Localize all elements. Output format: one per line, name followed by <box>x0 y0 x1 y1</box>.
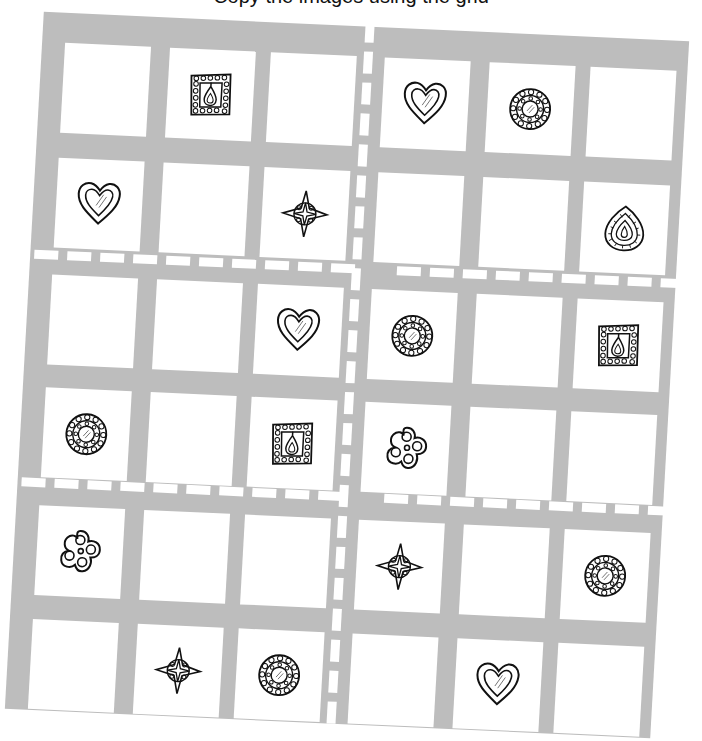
flower-icon <box>380 423 433 475</box>
region-divider-vertical <box>363 51 373 73</box>
grid-cell-r5-c1[interactable] <box>34 505 125 599</box>
region-divider-horizontal <box>21 477 45 487</box>
region-divider-horizontal <box>186 485 210 495</box>
grid-cell-r1-c4[interactable] <box>380 57 471 151</box>
grid-cell-r1-c2[interactable] <box>165 48 256 142</box>
region-divider-horizontal <box>627 277 651 287</box>
grid-cell-r6-c6[interactable] <box>553 643 644 737</box>
grid-cell-r3-c4[interactable] <box>367 289 458 383</box>
region-divider-horizontal <box>660 278 684 288</box>
grid-cell-r2-c3[interactable] <box>259 167 350 261</box>
region-divider-vertical <box>330 640 340 662</box>
grid-cell-r2-c4[interactable] <box>373 172 464 266</box>
region-divider-horizontal <box>615 504 639 514</box>
square-frame-icon <box>266 417 319 469</box>
puzzle-board <box>5 12 689 738</box>
grid-cell-r5-c3[interactable] <box>240 515 331 609</box>
region-divider-horizontal <box>67 251 91 261</box>
mandala-icon <box>386 310 439 362</box>
grid-cell-r2-c2[interactable] <box>159 162 250 256</box>
grid-cell-r4-c3[interactable] <box>247 397 338 491</box>
grid-cell-r2-c1[interactable] <box>54 158 145 252</box>
flower-icon <box>53 526 106 578</box>
grid-cell-r3-c6[interactable] <box>573 298 664 392</box>
grid-cell-r6-c1[interactable] <box>28 619 119 713</box>
region-divider-vertical <box>328 671 338 693</box>
region-divider-vertical <box>349 299 359 321</box>
region-divider-horizontal <box>483 498 507 508</box>
heart-icon <box>472 659 525 711</box>
region-divider-horizontal <box>516 500 540 510</box>
region-divider-horizontal <box>285 489 309 499</box>
region-divider-horizontal <box>153 483 177 493</box>
region-divider-vertical <box>342 423 352 445</box>
region-divider-vertical <box>354 206 364 228</box>
region-divider-vertical <box>356 175 366 197</box>
region-divider-horizontal <box>496 271 520 281</box>
grid-cell-r3-c5[interactable] <box>472 294 563 388</box>
region-divider-horizontal <box>561 274 585 284</box>
star-icon <box>152 645 205 697</box>
page-caption: Copy the images using the grid <box>0 0 702 6</box>
region-divider-vertical <box>358 144 368 166</box>
grid-cell-r4-c2[interactable] <box>146 392 237 486</box>
region-divider-horizontal <box>120 482 144 492</box>
mandala-icon <box>579 550 632 602</box>
region-divider-horizontal <box>430 268 454 278</box>
region-divider-horizontal <box>87 480 111 490</box>
grid-cell-r5-c2[interactable] <box>139 510 230 604</box>
grid-cell-r6-c4[interactable] <box>348 634 439 728</box>
grid-cell-r1-c1[interactable] <box>60 43 151 137</box>
square-frame-icon <box>184 68 237 120</box>
mandala-icon <box>504 83 557 135</box>
teardrop-icon <box>598 202 651 254</box>
grid-cell-r4-c4[interactable] <box>361 402 452 496</box>
region-divider-vertical <box>344 392 354 414</box>
region-divider-horizontal <box>54 479 78 489</box>
grid-cell-r5-c4[interactable] <box>354 520 445 614</box>
grid-cell-r2-c6[interactable] <box>579 182 670 276</box>
square-frame-icon <box>592 319 645 371</box>
region-divider-horizontal <box>529 272 553 282</box>
grid-cell-r6-c5[interactable] <box>452 638 543 732</box>
region-divider-horizontal <box>232 259 256 269</box>
grid-cell-r6-c2[interactable] <box>133 624 224 718</box>
star-icon <box>373 540 426 592</box>
region-divider-horizontal <box>265 260 289 270</box>
heart-icon <box>73 178 126 230</box>
grid-cell-r1-c6[interactable] <box>586 67 677 161</box>
region-divider-vertical <box>359 113 369 135</box>
region-divider-horizontal <box>648 506 672 516</box>
region-divider-vertical <box>335 547 345 569</box>
region-divider-horizontal <box>219 486 243 496</box>
region-divider-vertical <box>361 82 371 104</box>
region-divider-horizontal <box>298 262 322 272</box>
grid-cell-r5-c6[interactable] <box>560 529 651 623</box>
heart-icon <box>272 305 325 357</box>
region-divider-horizontal <box>100 253 124 263</box>
region-divider-horizontal <box>199 257 223 267</box>
grid-cell-r4-c6[interactable] <box>566 411 657 505</box>
region-divider-vertical <box>340 454 350 476</box>
region-divider-vertical <box>337 516 347 538</box>
region-divider-horizontal <box>166 256 190 266</box>
region-divider-vertical <box>327 701 337 723</box>
grid-cell-r4-c5[interactable] <box>465 407 556 501</box>
grid-cell-r3-c3[interactable] <box>253 284 344 378</box>
grid-cell-r6-c3[interactable] <box>234 628 325 722</box>
region-divider-vertical <box>333 578 343 600</box>
region-divider-horizontal <box>384 494 408 504</box>
grid-cell-r2-c5[interactable] <box>478 177 569 271</box>
region-divider-vertical <box>347 330 357 352</box>
grid-cell-r3-c1[interactable] <box>47 275 138 369</box>
region-divider-horizontal <box>463 269 487 279</box>
grid-cell-r1-c5[interactable] <box>485 62 576 156</box>
region-divider-horizontal <box>549 501 573 511</box>
region-divider-vertical <box>365 20 375 42</box>
grid-cell-r5-c5[interactable] <box>459 524 550 618</box>
grid-cell-r1-c3[interactable] <box>266 52 357 146</box>
grid-cell-r3-c2[interactable] <box>152 279 243 373</box>
region-divider-horizontal <box>318 491 342 501</box>
region-divider-horizontal <box>417 495 441 505</box>
grid-cell-r4-c1[interactable] <box>41 387 132 481</box>
